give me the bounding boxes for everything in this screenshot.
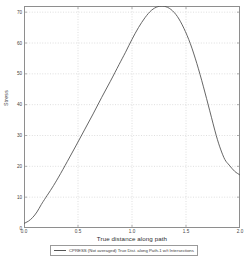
plot-area [24,6,240,228]
legend-entry-label: CPRESS (Not averaged) True Dist. along P… [69,248,194,253]
y-axis-tick-label: 60 [10,41,22,46]
chart-legend[interactable]: CPRESS (Not averaged) True Dist. along P… [50,245,198,256]
y-axis-tick-label: 30 [10,133,22,138]
y-axis-tick-label: 20 [10,164,22,169]
y-axis-tick-label: 40 [10,102,22,107]
plot-canvas [24,6,240,228]
y-axis-tick-label: 50 [10,71,22,76]
y-axis-tick-labels: 010203040506070 [8,6,22,228]
legend-line-swatch [54,250,66,251]
chart-figure: Stress 010203040506070 0.00.51.01.52.0 T… [0,0,247,263]
y-axis-tick-label: 70 [10,10,22,15]
y-axis-tick-label: 10 [10,195,22,200]
x-axis-title: True distance along path [24,235,240,242]
